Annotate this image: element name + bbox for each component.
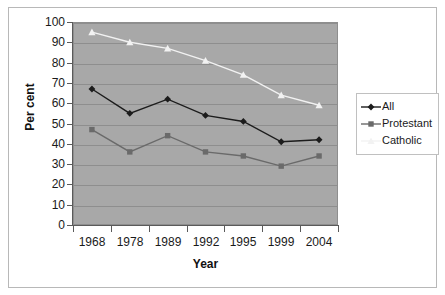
y-axis-tick-label: 80 — [21, 57, 65, 69]
legend-item-all[interactable]: All — [360, 98, 435, 115]
data-point-marker — [202, 112, 209, 119]
y-axis-tick — [67, 164, 72, 165]
series-catholic — [88, 29, 322, 109]
data-point-marker — [165, 133, 170, 138]
y-axis-tick-label: 10 — [21, 199, 65, 211]
x-axis-tick-label: 2004 — [296, 236, 342, 248]
legend-label: All — [382, 101, 394, 112]
data-point-marker — [241, 153, 246, 158]
y-axis-tick — [67, 83, 72, 84]
x-axis-tick — [111, 226, 112, 232]
y-axis-tick-label: 60 — [21, 97, 65, 109]
data-point-marker — [126, 110, 133, 117]
y-axis-tick — [67, 144, 72, 145]
data-point-marker — [203, 149, 208, 154]
legend-label: Protestant — [382, 118, 432, 129]
x-axis-line — [72, 225, 339, 226]
y-axis-tick — [67, 124, 72, 125]
square-marker-icon — [360, 117, 382, 131]
data-point-marker — [279, 163, 284, 168]
chart-frame: Per cent 1009080706050403020100 19681978… — [8, 7, 437, 288]
y-axis-tick — [67, 205, 72, 206]
data-point-marker — [88, 29, 95, 36]
series-plot — [73, 22, 338, 225]
x-axis-tick — [187, 226, 188, 232]
triangle-marker-icon — [360, 134, 382, 148]
chart-legend: AllProtestantCatholic — [356, 93, 439, 155]
series-all — [89, 86, 323, 146]
y-axis-tick-label: 0 — [21, 219, 65, 231]
y-axis-tick-label: 40 — [21, 138, 65, 150]
y-axis-tick — [67, 63, 72, 64]
data-point-marker — [127, 149, 132, 154]
y-axis-tick — [67, 103, 72, 104]
series-line — [92, 32, 319, 105]
y-axis-tick — [67, 22, 72, 23]
y-axis-tick-label: 70 — [21, 77, 65, 89]
data-point-marker — [316, 153, 321, 158]
data-point-marker — [164, 96, 171, 103]
x-axis-tick — [149, 226, 150, 232]
legend-item-protestant[interactable]: Protestant — [360, 115, 435, 132]
y-axis-tick-label: 50 — [21, 118, 65, 130]
data-point-marker — [89, 127, 94, 132]
y-axis-tick — [67, 184, 72, 185]
x-axis-tick — [300, 226, 301, 232]
y-axis-tick-label: 20 — [21, 178, 65, 190]
x-axis-tick — [224, 226, 225, 232]
x-axis-tick — [262, 226, 263, 232]
data-point-marker — [89, 86, 96, 93]
series-protestant — [89, 127, 322, 169]
y-axis-tick-label: 100 — [21, 16, 65, 28]
data-point-marker — [278, 91, 285, 98]
y-axis-tick-label: 30 — [21, 158, 65, 170]
x-axis-tick — [73, 226, 74, 232]
y-axis-tick-label: 90 — [21, 36, 65, 48]
data-point-marker — [316, 136, 323, 143]
series-line — [92, 130, 319, 167]
y-axis-tick — [67, 42, 72, 43]
x-axis-title: Year — [73, 257, 338, 271]
diamond-marker-icon — [360, 100, 382, 114]
data-point-marker — [240, 118, 247, 125]
x-axis-tick — [338, 226, 339, 232]
legend-item-catholic[interactable]: Catholic — [360, 132, 435, 149]
legend-label: Catholic — [382, 135, 422, 146]
data-point-marker — [278, 138, 285, 145]
